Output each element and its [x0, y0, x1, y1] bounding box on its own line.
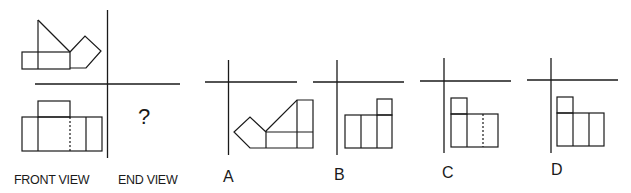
option-c-label[interactable]: C	[442, 165, 454, 181]
front-view	[22, 101, 102, 151]
end-view-label: END VIEW	[118, 174, 177, 187]
front-view-label: FRONT VIEW	[14, 174, 89, 187]
given-views-drawing	[0, 0, 631, 193]
option-d-drawing[interactable]	[527, 58, 618, 153]
option-a-label[interactable]: A	[223, 169, 234, 185]
option-b-drawing[interactable]	[313, 60, 404, 155]
option-b-label[interactable]: B	[334, 167, 345, 183]
given-projection-axes	[35, 10, 180, 158]
orthographic-projection-puzzle: ? FRONT VIEW END VIEW A B C D	[0, 0, 631, 193]
top-view	[22, 20, 101, 69]
option-d-label[interactable]: D	[551, 162, 563, 178]
end-view-question-mark: ?	[138, 106, 150, 128]
option-c-drawing[interactable]	[420, 58, 511, 153]
option-a-drawing[interactable]	[205, 60, 313, 155]
